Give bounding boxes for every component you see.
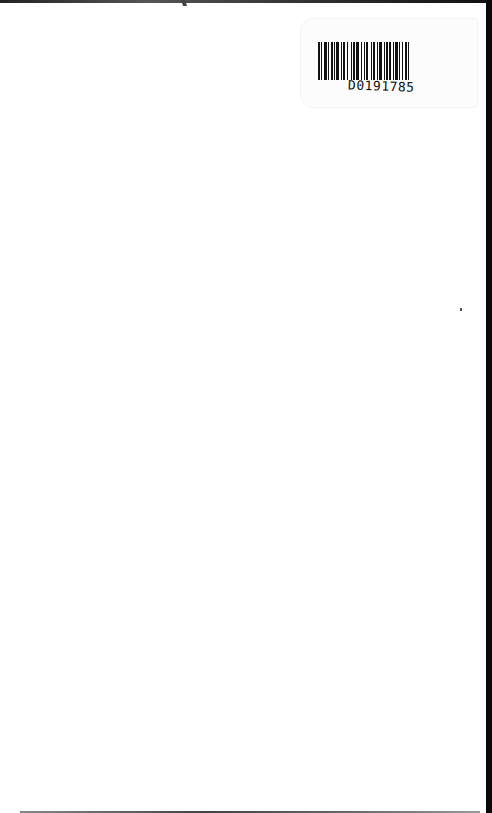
speck-mark	[460, 308, 462, 311]
scan-edge-right	[486, 0, 492, 813]
barcode-icon	[318, 42, 460, 80]
scan-edge-top	[0, 0, 492, 3]
barcode-id: D0191785	[348, 77, 438, 95]
